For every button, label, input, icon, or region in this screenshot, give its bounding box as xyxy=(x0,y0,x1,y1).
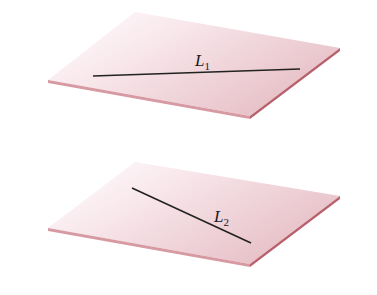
parallel-planes-diagram: L1 L2 xyxy=(0,0,377,295)
bottom-plane: L2 xyxy=(48,162,340,267)
top-plane: L1 xyxy=(48,12,340,119)
